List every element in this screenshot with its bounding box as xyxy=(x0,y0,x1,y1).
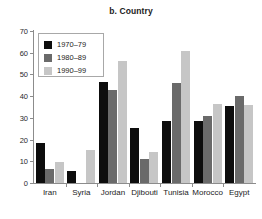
x-axis-label-jordan: Jordan xyxy=(101,188,125,197)
bar-chart: b. Country 010203040506070 IranSyriaJord… xyxy=(0,0,262,219)
legend: 1970–791980–891990–99 xyxy=(38,33,104,77)
bar xyxy=(36,143,45,183)
y-tick-label: 60 xyxy=(20,48,28,57)
bar xyxy=(213,104,222,183)
y-tick-label: 10 xyxy=(20,157,28,166)
bar xyxy=(130,128,139,183)
x-separator-tick xyxy=(160,183,161,187)
bar xyxy=(149,152,158,183)
bar xyxy=(45,169,54,183)
x-separator-tick xyxy=(97,183,98,187)
legend-label: 1970–79 xyxy=(57,40,86,49)
legend-label: 1990–99 xyxy=(57,66,86,75)
y-tick-label: 50 xyxy=(20,70,28,79)
bar xyxy=(225,106,234,183)
bar xyxy=(172,83,181,183)
bar xyxy=(67,171,76,183)
legend-item[interactable]: 1990–99 xyxy=(44,64,103,77)
legend-swatch-icon xyxy=(44,67,52,75)
bar-group xyxy=(160,31,192,183)
x-axis-label-syria: Syria xyxy=(72,188,90,197)
x-separator-tick xyxy=(192,183,193,187)
legend-item[interactable]: 1970–79 xyxy=(44,38,103,51)
y-tick-label: 30 xyxy=(20,113,28,122)
x-axis-label-tunisia: Tunisia xyxy=(163,188,189,197)
legend-swatch-icon xyxy=(44,41,52,49)
y-tick-label: 70 xyxy=(20,27,28,36)
bar xyxy=(86,150,95,183)
bar xyxy=(244,105,253,183)
x-separator-tick xyxy=(66,183,67,187)
bar xyxy=(99,82,108,183)
legend-label: 1980–89 xyxy=(57,53,86,62)
legend-swatch-icon xyxy=(44,54,52,62)
bar-group xyxy=(192,31,224,183)
bar xyxy=(181,51,190,183)
x-axis-label-djibouti: Djibouti xyxy=(131,188,158,197)
x-separator-tick xyxy=(129,183,130,187)
y-tick-mark xyxy=(30,183,34,184)
bar xyxy=(162,121,171,183)
bar xyxy=(235,96,244,183)
y-tick-label: 0 xyxy=(24,179,28,188)
chart-title: b. Country xyxy=(0,6,262,16)
bar xyxy=(108,90,117,183)
x-axis-label-morocco: Morocco xyxy=(192,188,223,197)
y-tick-label: 20 xyxy=(20,135,28,144)
bar xyxy=(203,116,212,183)
bar-group xyxy=(223,31,255,183)
bar-group xyxy=(129,31,161,183)
legend-item[interactable]: 1980–89 xyxy=(44,51,103,64)
bar xyxy=(118,61,127,183)
bar xyxy=(55,162,64,183)
bar xyxy=(194,121,203,183)
y-tick-label: 40 xyxy=(20,92,28,101)
x-separator-tick xyxy=(223,183,224,187)
x-axis-label-iran: Iran xyxy=(43,188,57,197)
x-axis-label-egypt: Egypt xyxy=(229,188,249,197)
bar xyxy=(140,159,149,183)
